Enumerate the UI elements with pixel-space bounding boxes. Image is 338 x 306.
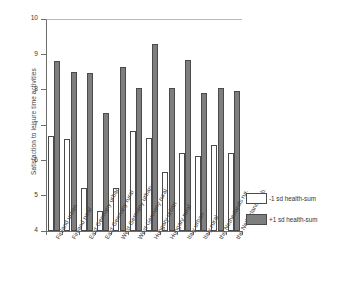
- legend-label-low: -1 sd health-sum: [269, 195, 316, 202]
- bar-chart: Satisfaction to leisure time activities …: [0, 0, 338, 306]
- chart-legend: -1 sd health-sum +1 sd health-sum: [246, 193, 317, 235]
- x-axis-labels: Finland urbanFinland ruralEast Germany u…: [0, 0, 338, 306]
- legend-swatch-high-icon: [246, 214, 267, 225]
- x-axis-category-label: the Netherlands rur.: [217, 188, 249, 240]
- legend-swatch-low-icon: [246, 193, 267, 204]
- legend-item-low[interactable]: -1 sd health-sum: [246, 193, 317, 204]
- legend-label-high: +1 sd health-sum: [269, 216, 317, 223]
- legend-item-high[interactable]: +1 sd health-sum: [246, 214, 317, 225]
